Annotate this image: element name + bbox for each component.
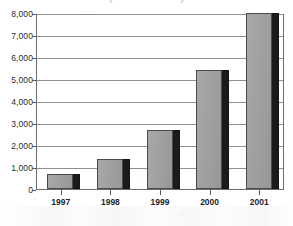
- x-axis-tick-mark: [210, 190, 211, 195]
- bar-face: [196, 70, 222, 189]
- x-axis-tick-mark: [160, 190, 161, 195]
- x-axis-tick-label: 1997: [36, 197, 86, 207]
- bar-face: [47, 174, 73, 189]
- x-axis-tick-label: 2000: [185, 197, 235, 207]
- bar: [196, 70, 229, 189]
- bar-series: [37, 15, 283, 189]
- x-axis-labels: 19971998199920002001: [0, 197, 293, 211]
- x-axis-tick-mark: [61, 190, 62, 195]
- bar-shadow: [272, 13, 279, 189]
- x-axis-tick-label: 1998: [85, 197, 135, 207]
- bar-face: [97, 159, 123, 189]
- bar-shadow: [222, 70, 229, 189]
- bar-face: [246, 13, 272, 189]
- bar-shadow: [123, 159, 130, 189]
- x-axis-tick-mark: [259, 190, 260, 195]
- bar-chart: 01,0002,0003,0004,0005,0006,0007,0008,00…: [0, 0, 293, 226]
- bar: [147, 130, 180, 189]
- x-axis-tick-label: 2001: [234, 197, 284, 207]
- bar-shadow: [73, 174, 80, 189]
- bar-shadow: [173, 130, 180, 189]
- plot-area: [36, 14, 284, 190]
- bar: [97, 159, 130, 189]
- bar-face: [147, 130, 173, 189]
- bar: [47, 174, 80, 189]
- bar: [246, 13, 279, 189]
- x-axis-tick-mark: [110, 190, 111, 195]
- x-axis-tick-label: 1999: [135, 197, 185, 207]
